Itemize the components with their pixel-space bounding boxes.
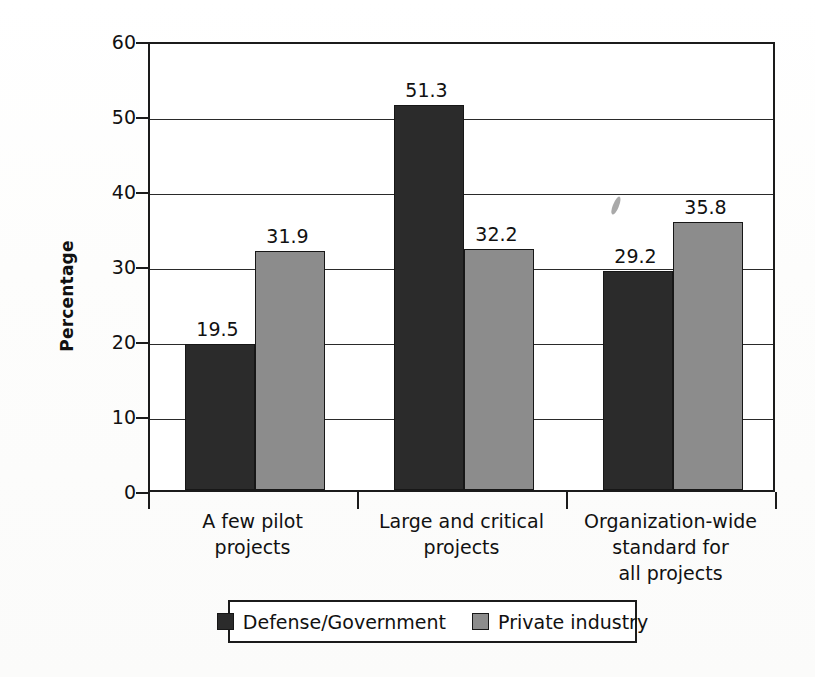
bar-chart-figure: Percentage 0102030405060 19.531.9A few p… [0,0,815,677]
y-axis-tick-mark [136,492,148,494]
y-axis-tick-labels: 0102030405060 [84,42,136,492]
bar [603,271,673,490]
bar-value-label: 32.2 [475,223,517,245]
x-axis-category-divider [357,492,359,509]
bar-value-label: 31.9 [266,225,308,247]
y-axis-tick-mark [136,42,148,44]
bar [394,105,464,490]
bar [673,222,743,491]
plot-area [148,42,775,492]
x-axis-edge-tick [775,492,777,509]
y-axis-tick-label: 50 [92,106,136,128]
legend-swatch-icon [217,613,234,630]
legend-item: Defense/Government [217,611,446,633]
y-axis-tick-mark [136,192,148,194]
y-axis-tick-label: 30 [92,256,136,278]
x-axis-category-label: Organization-wide standard for all proje… [550,508,791,586]
legend-label: Defense/Government [243,611,446,633]
bar [255,251,325,490]
bar-value-label: 29.2 [614,245,656,267]
chart-legend: Defense/GovernmentPrivate industry [228,600,637,643]
y-axis-tick-mark [136,267,148,269]
bar-value-label: 51.3 [405,79,447,101]
bar [464,249,534,491]
y-axis-tick-label: 0 [92,481,136,503]
y-axis-title-text: Percentage [57,240,77,351]
bar-value-label: 35.8 [684,196,726,218]
y-axis-tick-label: 40 [92,181,136,203]
legend-label: Private industry [498,611,648,633]
x-axis-category-label: Large and critical projects [341,508,582,560]
y-axis-tick-label: 20 [92,331,136,353]
y-axis-tick-mark [136,417,148,419]
x-axis-category-label: A few pilot projects [132,508,373,560]
legend-item: Private industry [472,611,648,633]
bar [185,344,255,490]
legend-swatch-icon [472,613,489,630]
x-axis-edge-tick [148,492,150,509]
y-axis-tick-label: 60 [92,31,136,53]
y-axis-tick-mark [136,342,148,344]
y-axis-tick-label: 10 [92,406,136,428]
y-axis-title: Percentage [52,236,82,356]
bar-value-label: 19.5 [196,318,238,340]
x-axis-category-divider [566,492,568,509]
y-axis-tick-mark [136,117,148,119]
